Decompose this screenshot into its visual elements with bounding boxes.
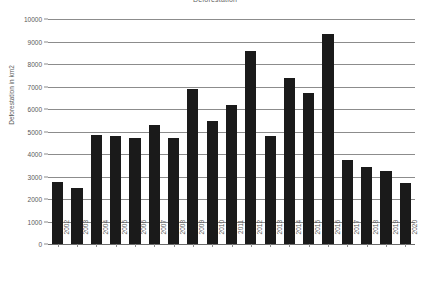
x-tick-label: 2004 [101, 220, 110, 250]
x-tick-label: 2006 [139, 220, 148, 250]
y-tick-label: 0 [38, 241, 42, 248]
x-tick-mark [212, 244, 213, 247]
x-tick-label: 2014 [294, 220, 303, 250]
x-tick-mark [289, 244, 290, 247]
plot-area: 0100020003000400050006000700080009000100… [48, 19, 415, 244]
x-tick-label: 2017 [352, 220, 361, 250]
x-tick-mark [135, 244, 136, 247]
x-tick-label: 2003 [81, 220, 90, 250]
x-tick-mark [174, 244, 175, 247]
x-tick-mark [154, 244, 155, 247]
chart-title: Deforestation [0, 0, 430, 6]
x-axis-labels: 2002200320042005200620072008200920102011… [48, 246, 415, 281]
y-tick-label: 5000 [28, 128, 42, 135]
x-tick-label: 2010 [217, 220, 226, 250]
x-tick-mark [405, 244, 406, 247]
x-tick-mark [367, 244, 368, 247]
x-tick-mark [77, 244, 78, 247]
x-tick-mark [347, 244, 348, 247]
x-tick-label: 2005 [120, 220, 129, 250]
x-tick-label: 2009 [197, 220, 206, 250]
x-tick-label: 2018 [371, 220, 380, 250]
x-tick-label: 2020 [410, 220, 419, 250]
y-tick-label: 9000 [28, 38, 42, 45]
x-tick-label: 2008 [178, 220, 187, 250]
y-axis-title: Deforestation in km2 [8, 50, 18, 140]
x-tick-mark [386, 244, 387, 247]
y-tick-label: 2000 [28, 196, 42, 203]
bar-series [48, 19, 415, 244]
y-tick-label: 8000 [28, 61, 42, 68]
x-tick-label: 2013 [275, 220, 284, 250]
y-tick-label: 1000 [28, 218, 42, 225]
x-tick-mark [96, 244, 97, 247]
bar-chart: Deforestation Deforestation in km2 01000… [0, 0, 430, 281]
x-tick-label: 2015 [313, 220, 322, 250]
x-tick-label: 2007 [159, 220, 168, 250]
x-tick-mark [328, 244, 329, 247]
x-tick-mark [116, 244, 117, 247]
y-tick-label: 7000 [28, 83, 42, 90]
bar[interactable] [322, 34, 333, 244]
x-tick-mark [232, 244, 233, 247]
y-tick-label: 3000 [28, 173, 42, 180]
x-tick-mark [251, 244, 252, 247]
y-tick-label: 10000 [24, 16, 42, 23]
x-tick-label: 2002 [62, 220, 71, 250]
x-tick-mark [58, 244, 59, 247]
x-tick-label: 2012 [255, 220, 264, 250]
x-tick-mark [309, 244, 310, 247]
y-tick-label: 4000 [28, 151, 42, 158]
y-tick-label: 6000 [28, 106, 42, 113]
bar[interactable] [245, 51, 256, 244]
bar[interactable] [380, 171, 391, 244]
x-tick-mark [193, 244, 194, 247]
x-tick-label: 2011 [236, 220, 245, 250]
x-tick-label: 2016 [333, 220, 342, 250]
x-tick-label: 2019 [391, 220, 400, 250]
x-tick-mark [270, 244, 271, 247]
